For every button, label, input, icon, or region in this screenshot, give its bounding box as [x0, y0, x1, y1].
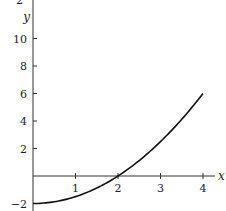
x-tick-label: 2 — [115, 182, 122, 195]
top-cut-tick-label: 2 — [16, 0, 23, 7]
y-tick-label: 4 — [20, 115, 27, 128]
function-plot: −2246810 1234 y x 2 — [0, 0, 226, 211]
y-tick-label: 6 — [20, 88, 27, 101]
y-tick-label: −2 — [11, 198, 27, 211]
x-axis-label: x — [218, 169, 225, 183]
x-tick-label: 3 — [157, 182, 164, 195]
y-tick-label: 8 — [20, 60, 27, 73]
x-tick-label: 1 — [72, 182, 79, 195]
y-axis-label: y — [22, 10, 30, 24]
y-tick-label: 10 — [13, 33, 27, 46]
x-tick-label: 4 — [200, 182, 207, 195]
y-tick-label: 2 — [20, 143, 27, 156]
